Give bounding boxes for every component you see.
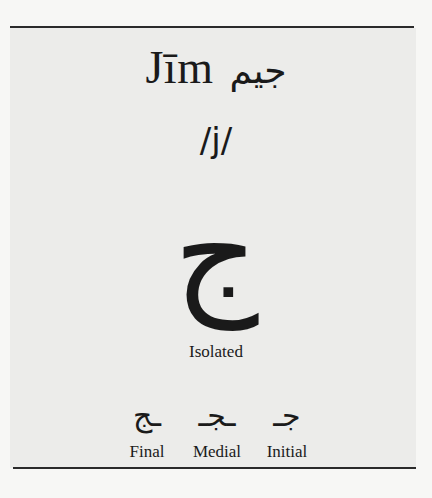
letter-name-arabic: جيم xyxy=(229,50,286,91)
final-form-label: Final xyxy=(112,442,182,462)
medial-form-label: Medial xyxy=(182,442,252,462)
bottom-divider xyxy=(13,467,416,469)
isolated-letter-glyph: ج xyxy=(0,168,432,338)
letter-title: Jīmجيم xyxy=(0,40,432,99)
phoneme-transcription: /j/ xyxy=(0,118,432,162)
isolated-label: Isolated xyxy=(0,342,432,362)
initial-form-glyph: جـ xyxy=(252,398,322,434)
top-divider xyxy=(10,26,414,28)
initial-form-label: Initial xyxy=(252,442,322,462)
final-form-glyph: ـج xyxy=(112,398,182,434)
letter-name-latin: Jīm xyxy=(145,42,213,93)
medial-form-glyph: ـجـ xyxy=(182,398,252,434)
